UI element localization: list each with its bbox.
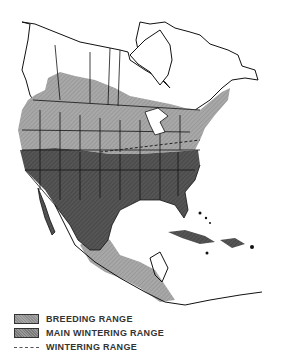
legend-item-breeding: BREEDING RANGE bbox=[14, 312, 164, 326]
wintering-range bbox=[20, 148, 245, 250]
range-map bbox=[0, 0, 281, 310]
legend-item-wintering: WINTERING RANGE bbox=[14, 340, 164, 354]
caribbean-islands bbox=[199, 212, 255, 255]
breeding-swatch-icon bbox=[14, 314, 39, 324]
dashed-line-icon bbox=[14, 347, 39, 348]
wintering-swatch-icon bbox=[14, 328, 39, 338]
legend-item-main-wintering: MAIN WINTERING RANGE bbox=[14, 326, 164, 340]
map-legend: BREEDING RANGE MAIN WINTERING RANGE WINT… bbox=[14, 312, 164, 354]
